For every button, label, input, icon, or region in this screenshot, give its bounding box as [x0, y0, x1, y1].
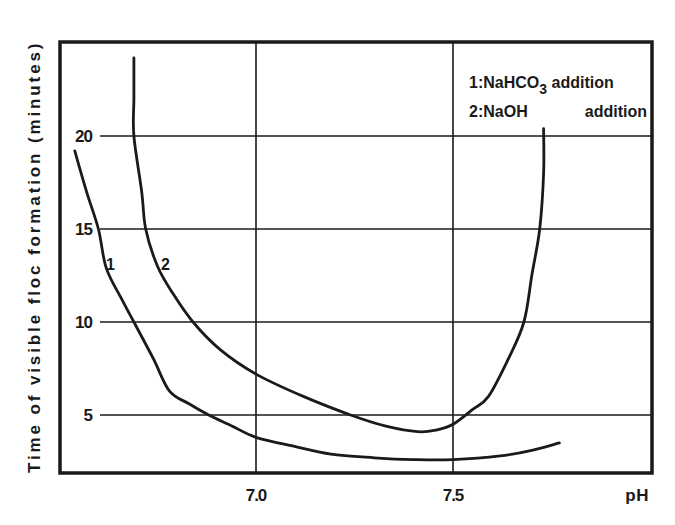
y-tick-label: 15 — [75, 220, 92, 239]
curve-1-label: 1 — [106, 256, 115, 273]
floc-formation-chart: 5101520 7.07.5 pH Time of visible floc f… — [0, 0, 675, 525]
x-axis-title: pH — [625, 486, 649, 505]
y-tick-label: 20 — [75, 127, 92, 146]
y-tick-label: 10 — [75, 313, 92, 332]
curve-1 — [75, 151, 560, 460]
curve-2-label: 2 — [161, 256, 170, 273]
x-tick-label: 7.0 — [246, 486, 267, 505]
x-tick-labels: 7.07.5 — [246, 486, 464, 505]
legend-entry-1: 1:NaHCO3 addition — [469, 74, 614, 97]
y-tick-label: 5 — [84, 406, 93, 425]
legend-entry-2: 2:NaOH addition — [469, 103, 647, 120]
legend: 1:NaHCO3 addition 2:NaOH addition — [469, 74, 647, 120]
y-tick-labels: 5101520 — [75, 127, 92, 425]
plot-frame — [60, 42, 652, 473]
y-axis-title: Time of visible floc formation (minutes) — [25, 43, 44, 473]
x-tick-label: 7.5 — [443, 486, 464, 505]
